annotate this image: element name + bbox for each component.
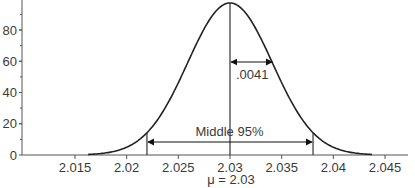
y-axis: 020406080 <box>3 0 22 163</box>
y-tick-label: 60 <box>3 54 17 69</box>
x-tick-label: 2.04 <box>321 160 346 175</box>
sd-label: .0041 <box>236 67 269 82</box>
x-tick-label: 2.045 <box>369 160 402 175</box>
y-tick-label: 20 <box>3 116 17 131</box>
x-tick-label: 2.02 <box>114 160 139 175</box>
normal-distribution-chart: 020406080 2.0152.022.0252.032.0352.042.0… <box>0 0 415 188</box>
x-tick-label: 2.025 <box>162 160 195 175</box>
x-axis-label: μ = 2.03 <box>207 172 255 187</box>
y-tick-label: 0 <box>10 148 17 163</box>
y-tick-label: 40 <box>3 85 17 100</box>
x-tick-label: 2.015 <box>59 160 92 175</box>
x-tick-label: 2.035 <box>265 160 298 175</box>
middle-95-label: Middle 95% <box>196 124 264 139</box>
y-tick-label: 80 <box>3 23 17 38</box>
